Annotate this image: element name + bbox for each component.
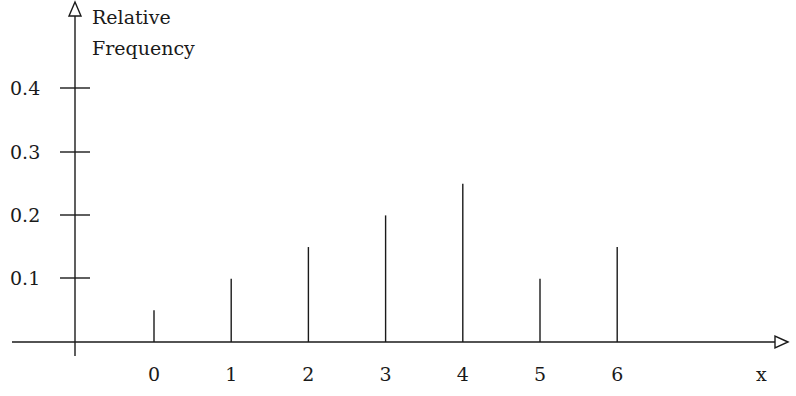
y-tick-label: 0.2 xyxy=(10,204,40,226)
y-ticks: 0.4 0.3 0.2 0.1 xyxy=(10,77,90,289)
y-axis-arrow-icon xyxy=(69,2,81,16)
x-tick-label: 0 xyxy=(148,363,160,385)
x-tick-label: 5 xyxy=(534,363,546,385)
chart: Relative Frequency 0.4 0.3 0.2 0.1 01234… xyxy=(0,0,796,396)
y-axis-label-line1: Relative xyxy=(92,6,171,28)
x-tick-label: 6 xyxy=(611,363,623,385)
y-tick-label: 0.1 xyxy=(10,267,40,289)
y-tick-label: 0.3 xyxy=(10,141,40,163)
y-tick-label: 0.4 xyxy=(10,77,40,99)
x-axis-arrow-icon xyxy=(775,336,788,348)
x-tick-labels: 0123456 xyxy=(148,363,623,385)
x-tick-label: 2 xyxy=(302,363,314,385)
bars xyxy=(154,184,617,342)
x-tick-label: 1 xyxy=(225,363,237,385)
x-tick-label: 4 xyxy=(457,363,469,385)
y-axis-label-line2: Frequency xyxy=(92,37,195,59)
x-axis-label: x xyxy=(756,363,767,385)
x-tick-label: 3 xyxy=(380,363,392,385)
